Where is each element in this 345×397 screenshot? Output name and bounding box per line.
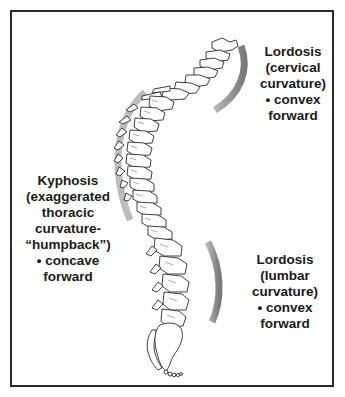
label-line: curvature- (8, 221, 128, 237)
label-line: Lordosis (240, 252, 330, 268)
label-line: (exaggerated (8, 189, 128, 205)
label-line: • convex (248, 92, 338, 108)
label-line: • convex (240, 300, 330, 316)
label-line: Lordosis (248, 44, 338, 60)
label-line: forward (8, 269, 128, 285)
label-line: forward (240, 316, 330, 332)
label-line: forward (248, 108, 338, 124)
label-line: • concave (8, 253, 128, 269)
vertebrae-group (114, 38, 238, 377)
label-line: (lumbar (240, 268, 330, 284)
label-line: Kyphosis (8, 173, 128, 189)
label-line: “humpback”) (8, 237, 128, 253)
lumbar-lordosis-label: Lordosis (lumbar curvature) • convex for… (240, 252, 330, 332)
lumbar-curve-arc (208, 242, 219, 322)
label-line: curvature) (240, 284, 330, 300)
label-line: thoracic (8, 205, 128, 221)
thoracic-kyphosis-label: Kyphosis (exaggerated thoracic curvature… (8, 173, 128, 285)
label-line: (cervical (248, 60, 338, 76)
label-line: curvature) (248, 76, 338, 92)
cervical-lordosis-label: Lordosis (cervical curvature) • convex f… (248, 44, 338, 124)
